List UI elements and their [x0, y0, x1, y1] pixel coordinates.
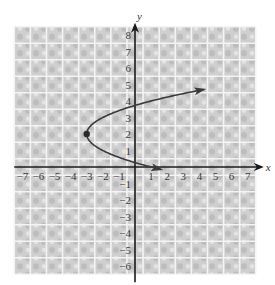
x-axis-label: x	[265, 161, 271, 173]
y-tick-label: 7	[126, 46, 132, 58]
y-tick-label: 2	[126, 128, 132, 140]
x-tick-label: −2	[97, 170, 109, 182]
x-tick-label: 3	[181, 170, 187, 182]
y-tick-label: 6	[126, 62, 132, 74]
y-tick-label: −3	[119, 211, 131, 223]
y-tick-label: 5	[126, 79, 132, 91]
y-tick-label: 1	[126, 145, 132, 157]
y-tick-label: −1	[119, 178, 131, 190]
x-tick-label: −7	[16, 170, 28, 182]
y-tick-label: 3	[126, 112, 132, 124]
y-tick-label: −2	[119, 194, 131, 206]
y-axis-label: y	[136, 10, 142, 22]
x-tick-label: 4	[197, 170, 203, 182]
x-tick-label: 5	[213, 170, 219, 182]
x-tick-label: −5	[49, 170, 61, 182]
y-tick-label: 8	[126, 29, 132, 41]
x-tick-label: −4	[65, 170, 77, 182]
x-tick-label: 2	[164, 170, 170, 182]
chart-canvas: −7−6−5−4−3−2−11234567 −6−5−4−3−2−1123456…	[0, 0, 275, 285]
y-tick-label: −4	[119, 227, 131, 239]
x-tick-label: 6	[229, 170, 235, 182]
y-tick-label: −6	[119, 260, 131, 272]
y-tick-label: −5	[119, 244, 131, 256]
x-tick-label: 7	[245, 170, 251, 182]
y-tick-label: 4	[126, 95, 132, 107]
x-tick-label: −3	[81, 170, 93, 182]
vertex-point	[84, 131, 90, 137]
x-tick-label: −6	[33, 170, 45, 182]
x-tick-label: 1	[148, 170, 154, 182]
